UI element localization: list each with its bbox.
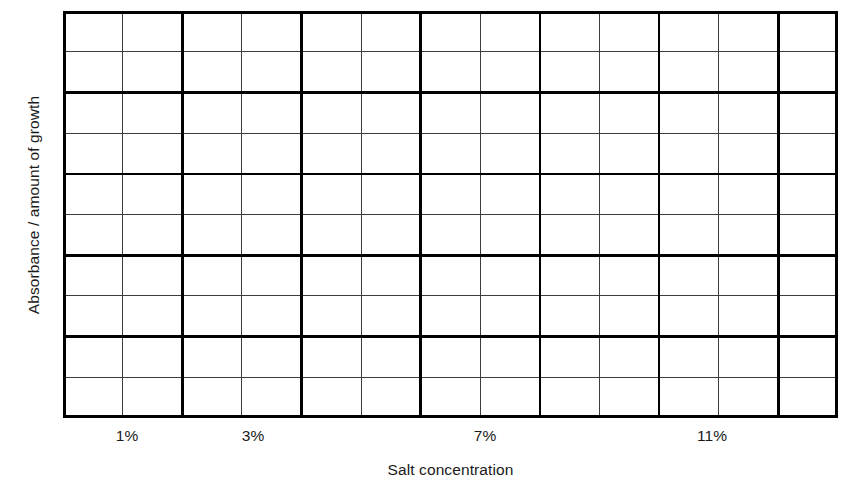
x-tick-label-2: 3% xyxy=(213,425,293,447)
x-axis-tick-labels: 1% 3% 7% 11% xyxy=(0,425,847,451)
blank-graph-figure: Absorbance / amount of growth 1% 3% 7% 1… xyxy=(0,0,847,499)
y-axis-title: Absorbance / amount of growth xyxy=(14,0,54,420)
x-tick-label-3: 7% xyxy=(445,425,525,447)
x-axis-title: Salt concentration xyxy=(63,458,838,482)
x-tick-label-1: 1% xyxy=(87,425,167,447)
x-tick-label-4: 11% xyxy=(672,425,752,447)
plot-grid-area xyxy=(63,11,838,418)
grid-lines xyxy=(63,11,838,418)
grid-minor-lines xyxy=(63,11,838,418)
